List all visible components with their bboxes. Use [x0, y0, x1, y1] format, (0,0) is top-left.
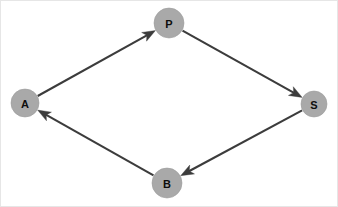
node-circle[interactable]	[152, 168, 182, 198]
node-circle[interactable]	[11, 89, 39, 117]
graph-edge-s-to-b	[181, 110, 302, 175]
directed-graph: PASB	[1, 1, 338, 207]
graph-edge-a-to-p	[38, 31, 156, 96]
node-circle[interactable]	[301, 91, 327, 117]
edge-layer	[38, 31, 303, 176]
graph-edge-p-to-s	[183, 31, 303, 98]
edge-line	[183, 31, 295, 93]
edge-line	[189, 110, 302, 171]
graph-node-p[interactable]: P	[154, 8, 184, 38]
edge-line	[46, 115, 154, 176]
graph-node-s[interactable]: S	[301, 91, 327, 117]
arrow-head-icon	[38, 110, 52, 121]
graph-node-a[interactable]: A	[11, 89, 39, 117]
node-circle[interactable]	[154, 8, 184, 38]
diagram-canvas: PASB	[0, 0, 338, 207]
graph-node-b[interactable]: B	[152, 168, 182, 198]
graph-edge-b-to-a	[38, 110, 154, 175]
edge-line	[38, 35, 148, 96]
node-layer: PASB	[11, 8, 327, 198]
